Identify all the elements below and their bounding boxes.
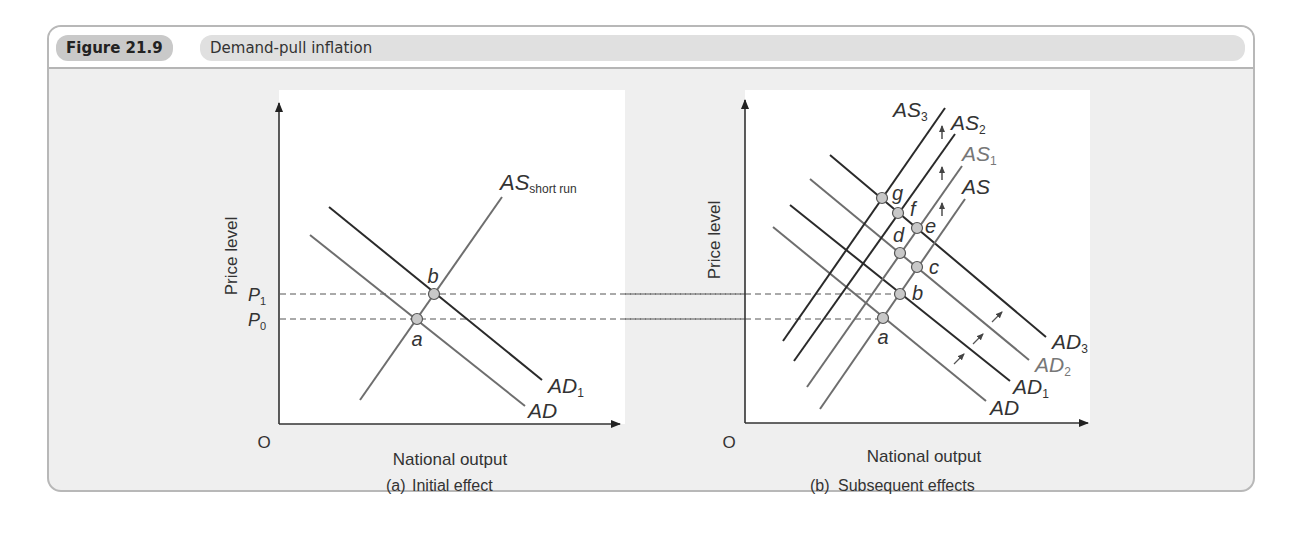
panel-b-y-axis-label: Price level <box>705 201 724 279</box>
panel-b-x-axis-label: National output <box>867 447 982 466</box>
panel-a-ad-label: AD <box>526 399 557 422</box>
panel-a-origin: O <box>257 433 270 452</box>
panel-b-point-d <box>895 248 906 259</box>
panel-b-label-e: e <box>925 215 936 237</box>
panel-b-as-label: AS <box>960 175 990 198</box>
panel-b-origin: O <box>722 433 735 452</box>
panel-b-label-c: c <box>929 256 939 278</box>
panel-a-point-b <box>429 289 440 300</box>
panel-b-point-b <box>895 289 906 300</box>
panel-b-point-g <box>877 193 888 204</box>
panel-b-point-c <box>912 262 923 273</box>
panel-a-point-a <box>412 314 423 325</box>
panel-a-x-axis-label: National output <box>393 450 508 469</box>
panel-b-point-f <box>893 208 904 219</box>
panel-b-ad-label: AD <box>988 396 1019 419</box>
panel-b-label-d: d <box>893 224 905 246</box>
panel-a-caption-tag: (a) <box>386 477 406 494</box>
panel-b-caption-tag: (b) <box>810 477 830 494</box>
panel-b-label-a: a <box>877 326 888 348</box>
panel-b-label-b: b <box>912 282 923 304</box>
panel-a-label-a: a <box>411 328 422 350</box>
panel-b-point-e <box>912 223 923 234</box>
panel-a-y-axis-label: Price level <box>222 217 241 295</box>
panel-a-label-b: b <box>427 265 438 287</box>
p0-label: P0 <box>248 310 266 332</box>
panel-b-label-g: g <box>892 182 903 204</box>
p1-label: P1 <box>248 285 266 307</box>
panel-b: a b c d e f g AS3 AS2 AS1 AS AD3 AD2 AD1… <box>625 90 1090 494</box>
demand-pull-diagram: b a P1 P0 ASshort run AD1 AD Price level… <box>0 0 1305 548</box>
panel-b-caption: Subsequent effects <box>838 477 975 494</box>
panel-a-caption: Initial effect <box>412 477 493 494</box>
panel-b-point-a <box>878 313 889 324</box>
